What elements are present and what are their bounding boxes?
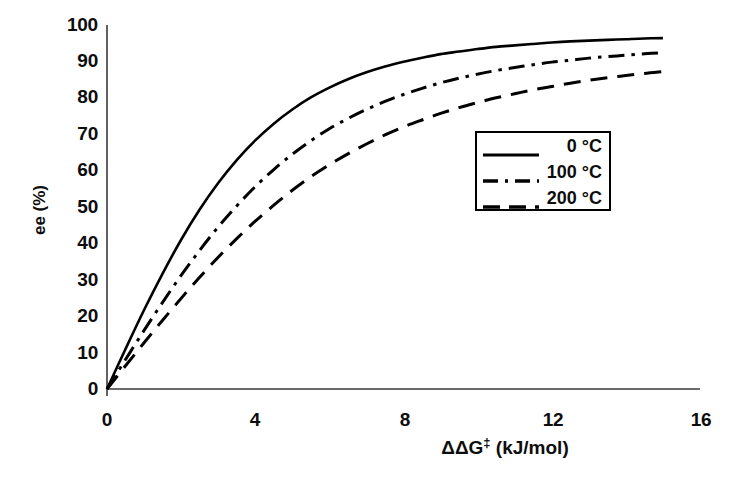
x-axis-title-main: ΔΔG <box>441 437 483 458</box>
legend-item-0c: 0 °C <box>477 133 609 159</box>
y-tick-label-60: 60 <box>42 159 98 181</box>
series-line-0-c <box>107 38 663 389</box>
legend-item-100c: 100 °C <box>477 159 609 185</box>
legend-label-200c: 200 °C <box>547 188 602 209</box>
x-tick-label-0: 0 <box>87 409 127 431</box>
y-tick-label-40: 40 <box>42 232 98 254</box>
legend-item-200c: 200 °C <box>477 185 609 211</box>
y-tick-label-30: 30 <box>42 269 98 291</box>
series-group <box>107 38 663 389</box>
legend-label-0c: 0 °C <box>567 136 602 157</box>
x-tick-label-12: 12 <box>533 409 573 431</box>
x-axis-title: ΔΔG‡ (kJ/mol) <box>380 437 630 459</box>
legend-line-dashed-icon <box>483 196 539 200</box>
y-tick-label-90: 90 <box>42 50 98 72</box>
series-line-200-c <box>107 72 663 389</box>
legend-label-100c: 100 °C <box>547 162 602 183</box>
x-tick-label-4: 4 <box>235 409 275 431</box>
series-line-100-c <box>107 53 663 389</box>
x-axis-title-units: (kJ/mol) <box>491 437 569 458</box>
y-tick-label-50: 50 <box>42 196 98 218</box>
y-tick-label-10: 10 <box>42 342 98 364</box>
y-tick-label-80: 80 <box>42 86 98 108</box>
y-tick-label-0: 0 <box>42 378 98 400</box>
y-tick-label-100: 100 <box>42 14 98 36</box>
legend-line-solid-icon <box>483 144 539 148</box>
chart-container: 100 90 80 70 60 50 40 30 20 10 0 0 4 8 1… <box>0 0 734 482</box>
x-tick-label-16: 16 <box>681 409 721 431</box>
y-axis-title: ee (%) <box>30 160 50 260</box>
y-tick-label-70: 70 <box>42 123 98 145</box>
x-tick-label-8: 8 <box>385 409 425 431</box>
legend: 0 °C 100 °C 200 °C <box>475 131 611 211</box>
legend-line-dashdot-icon <box>483 170 539 174</box>
y-tick-label-20: 20 <box>42 305 98 327</box>
x-axis-title-superscript: ‡ <box>483 435 490 450</box>
